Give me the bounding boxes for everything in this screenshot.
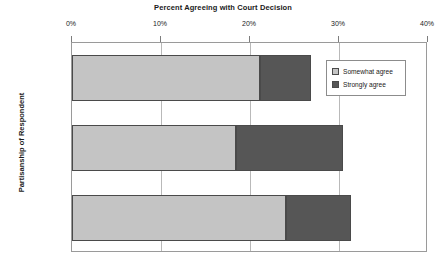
- legend-item-strongly-agree: Strongly agree: [332, 78, 401, 91]
- bar-segment: [286, 195, 351, 241]
- bar-segment: [72, 55, 260, 101]
- bar-segment: [72, 195, 286, 241]
- x-tick-label: 20%: [229, 20, 269, 27]
- bar-segment: [260, 55, 311, 101]
- x-tick-label: 30%: [318, 20, 358, 27]
- bar-segment: [72, 125, 236, 171]
- legend-label-strongly-agree: Strongly agree: [343, 81, 386, 88]
- y-axis-title: Partisanship of Respondent: [17, 73, 26, 213]
- legend-swatch-somewhat-agree: [332, 68, 339, 75]
- chart-title: Percent Agreeing with Court Decision: [0, 3, 446, 12]
- legend-item-somewhat-agree: Somewhat agree: [332, 65, 401, 78]
- legend: Somewhat agree Strongly agree: [326, 60, 406, 96]
- x-tick-label: 40%: [407, 20, 446, 27]
- x-tick-label: 0%: [51, 20, 91, 27]
- legend-swatch-strongly-agree: [332, 81, 339, 88]
- x-tick-label: 10%: [140, 20, 180, 27]
- bar-chart: Percent Agreeing with Court Decision Par…: [0, 0, 446, 269]
- legend-label-somewhat-agree: Somewhat agree: [343, 68, 393, 75]
- bar-segment: [236, 125, 343, 171]
